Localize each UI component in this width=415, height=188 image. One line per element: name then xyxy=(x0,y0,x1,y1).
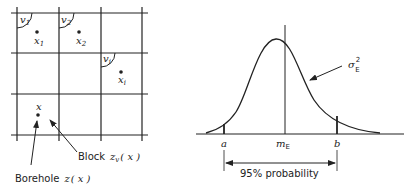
variance-label: σ2E xyxy=(348,56,360,74)
point-label-1: x1 xyxy=(34,35,44,48)
mean-label: mE xyxy=(276,138,290,151)
block-label: Blockzv( x ) xyxy=(78,151,140,164)
borehole-point-label: x xyxy=(36,101,42,112)
point-label-i: xi xyxy=(118,74,126,87)
density-curve xyxy=(206,39,380,133)
block-1: v1 x1 xyxy=(17,13,44,48)
sample-point-1 xyxy=(35,30,39,34)
volume-label-2: v2 xyxy=(61,14,72,27)
variance-arrow xyxy=(310,66,342,80)
block-grid xyxy=(11,7,148,141)
block-i: vi xi xyxy=(101,53,126,87)
borehole-point xyxy=(36,113,40,117)
volume-label-i: vi xyxy=(103,53,111,66)
upper-bound-label: b xyxy=(334,138,340,149)
lower-bound-label: a xyxy=(221,138,227,149)
kriging-diagram: v1 x1 v2 x2 vi xi x Blockzv( x ) Borehol… xyxy=(0,0,415,188)
block-arrow xyxy=(50,120,77,152)
volume-label-1: v1 xyxy=(20,14,30,27)
block-2: v2 x2 xyxy=(59,13,87,48)
sample-point-2 xyxy=(77,30,81,34)
point-label-2: x2 xyxy=(76,35,87,48)
borehole-label: Boreholez( x ) xyxy=(15,173,91,184)
error-distribution: σ2E a mE b 95% probability xyxy=(196,25,404,179)
borehole-arrow xyxy=(31,121,37,165)
interval-label: 95% probability xyxy=(240,168,319,179)
